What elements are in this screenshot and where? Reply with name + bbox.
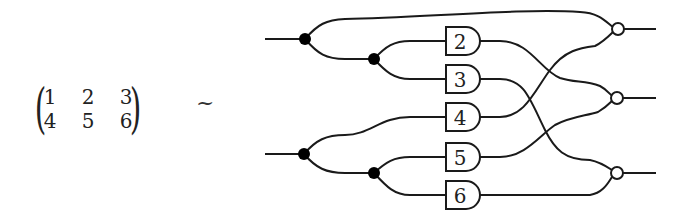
wire-s4-to-gate6	[374, 173, 446, 195]
gate-6-label: 6	[454, 184, 467, 208]
gate-4: 4	[446, 103, 480, 131]
wire-s2-to-gate3	[374, 59, 446, 79]
gate-6: 6	[446, 181, 480, 209]
gate-3-label: 3	[454, 68, 467, 92]
output-node-1	[612, 23, 624, 35]
wire-s4-to-gate5	[374, 157, 446, 173]
split-node-3	[298, 148, 310, 160]
split-node-4	[368, 167, 380, 179]
output-node-2	[611, 92, 623, 104]
output-node-3	[611, 167, 623, 179]
split-node-2	[368, 53, 380, 65]
wire-gate6-to-out3	[478, 177, 612, 195]
wire-gate2-to-out2	[478, 41, 612, 96]
gate-2-label: 2	[454, 30, 467, 54]
wire-s2-to-gate2	[374, 41, 446, 59]
gate-2: 2	[446, 27, 480, 55]
wire-s3-to-s4	[304, 154, 374, 173]
wire-s1-to-s2	[305, 39, 374, 59]
circuit-diagram: 2 3 4 5 6	[0, 0, 689, 218]
gate-3: 3	[446, 65, 480, 93]
gate-4-label: 4	[454, 106, 467, 130]
gate-5-label: 5	[454, 146, 467, 170]
wire-s3-to-gate4	[304, 117, 446, 154]
split-node-1	[299, 33, 311, 45]
wire-gate4-to-out1	[478, 32, 613, 117]
diagram-canvas: ( ) 1 2 3 4 5 6 ~	[0, 0, 689, 218]
gate-5: 5	[446, 143, 480, 171]
